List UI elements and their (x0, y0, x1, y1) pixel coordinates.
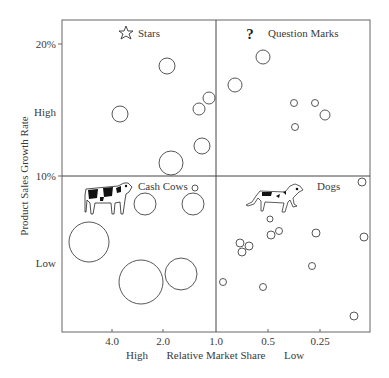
dog-icon (246, 184, 303, 212)
x-tick-label-4: 4.0 (105, 335, 119, 347)
cash-cows-bubbles (69, 185, 204, 304)
bubble (119, 260, 163, 304)
bubble (267, 231, 275, 239)
bubble (194, 138, 210, 154)
bubble (260, 284, 267, 291)
y-label-high: High (34, 106, 57, 118)
bubble (292, 124, 299, 131)
star-icon (119, 26, 133, 39)
bubble (69, 222, 109, 262)
bubble (134, 193, 156, 215)
y-tick-label-20: 20% (36, 38, 56, 50)
quadrant-label-stars: Stars (138, 27, 160, 39)
x-tick-label-05: 0.5 (261, 335, 275, 347)
bubble (112, 106, 128, 122)
quadrant-label-question-marks: Question Marks (268, 27, 339, 39)
x-label-low: Low (284, 349, 304, 361)
bubble (203, 92, 215, 104)
cow-icon (85, 183, 132, 214)
bubble (267, 216, 273, 222)
x-label-high: High (126, 349, 149, 361)
quadrant-label-dogs: Dogs (317, 180, 340, 192)
bubble (236, 239, 244, 247)
stars-bubbles (112, 58, 215, 175)
x-tick-label-025: 0.25 (310, 335, 330, 347)
question-mark-icon: ? (246, 26, 254, 42)
question-marks-bubbles (228, 50, 330, 131)
bubble (220, 279, 227, 286)
x-tick-label-2: 2.0 (156, 335, 170, 347)
x-axis-title: Relative Market Share (167, 349, 266, 361)
bcg-matrix-chart: 20% High 10% Low Product Sales Growth Ra… (0, 0, 389, 378)
bubble (245, 242, 253, 250)
quadrant-label-cash-cows: Cash Cows (138, 180, 188, 192)
x-tick-label-1: 1.0 (209, 335, 223, 347)
y-tick-label-10: 10% (36, 170, 56, 182)
bubble (238, 248, 246, 256)
y-label-low: Low (36, 257, 56, 269)
bubble (312, 229, 320, 237)
bubble (320, 110, 330, 120)
bubble (159, 58, 175, 74)
bubble (291, 100, 298, 107)
bubble (276, 228, 283, 235)
bubble (193, 103, 205, 115)
dogs-bubbles (220, 178, 369, 320)
bubble (358, 178, 366, 186)
bubble (309, 263, 316, 270)
bubble (159, 151, 183, 175)
bubble (256, 50, 270, 64)
bubble (165, 258, 197, 290)
y-axis-title: Product Sales Growth Rate (18, 116, 30, 236)
bubble (350, 312, 358, 320)
bubble (312, 100, 319, 107)
bubble (182, 193, 204, 215)
bubble (228, 78, 242, 92)
bubble (192, 185, 198, 191)
bubble (360, 233, 368, 241)
